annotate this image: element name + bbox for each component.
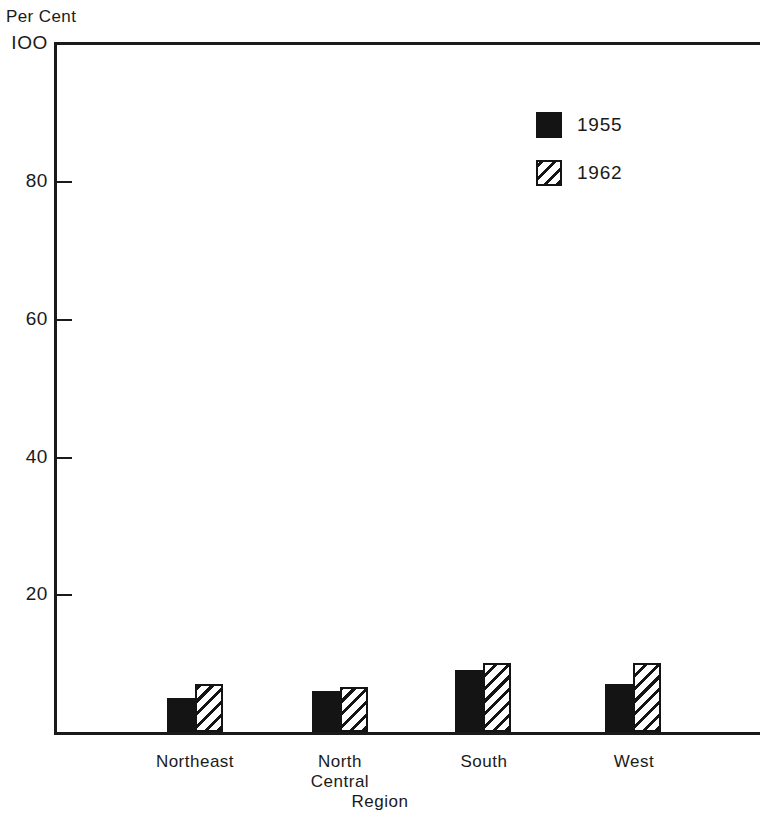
bar-northeast-1955 bbox=[167, 698, 195, 732]
bar-south-1955 bbox=[455, 670, 483, 732]
plot-frame-top-rule bbox=[54, 42, 760, 45]
y-tick-mark-40 bbox=[57, 457, 72, 459]
bar-north-central-1962 bbox=[340, 687, 368, 732]
bar-west-1955 bbox=[605, 684, 633, 732]
bar-chart-figure: Per Cent IOO 80 60 40 20 Northeast North… bbox=[0, 0, 760, 826]
bar-northeast-1962 bbox=[195, 684, 223, 732]
legend-label-1955: 1955 bbox=[577, 114, 622, 136]
x-category-label-north-central: North Central bbox=[260, 752, 420, 792]
y-tick-label-60: 60 bbox=[0, 308, 48, 330]
y-tick-label-20: 20 bbox=[0, 583, 48, 605]
y-axis-line bbox=[54, 42, 57, 735]
y-tick-label-80: 80 bbox=[0, 170, 48, 192]
y-axis-title: Per Cent bbox=[6, 7, 76, 27]
x-category-label-south: South bbox=[404, 752, 564, 772]
y-tick-mark-20 bbox=[57, 594, 72, 596]
y-tick-mark-100 bbox=[57, 43, 72, 45]
bar-south-1962 bbox=[483, 663, 511, 732]
legend-swatch-1955 bbox=[536, 112, 562, 138]
y-tick-label-100: IOO bbox=[0, 32, 48, 54]
legend: 1955 1962 bbox=[536, 112, 622, 208]
x-axis-baseline bbox=[54, 732, 760, 735]
legend-item-1955: 1955 bbox=[536, 112, 622, 138]
y-tick-label-40: 40 bbox=[0, 446, 48, 468]
y-tick-mark-80 bbox=[57, 181, 72, 183]
legend-swatch-1962 bbox=[536, 160, 562, 186]
x-axis-title: Region bbox=[0, 792, 760, 812]
legend-label-1962: 1962 bbox=[577, 162, 622, 184]
legend-item-1962: 1962 bbox=[536, 160, 622, 186]
x-category-label-west: West bbox=[554, 752, 714, 772]
bar-west-1962 bbox=[633, 663, 661, 732]
bar-north-central-1955 bbox=[312, 691, 340, 732]
y-tick-mark-60 bbox=[57, 319, 72, 321]
x-category-label-northeast: Northeast bbox=[115, 752, 275, 772]
